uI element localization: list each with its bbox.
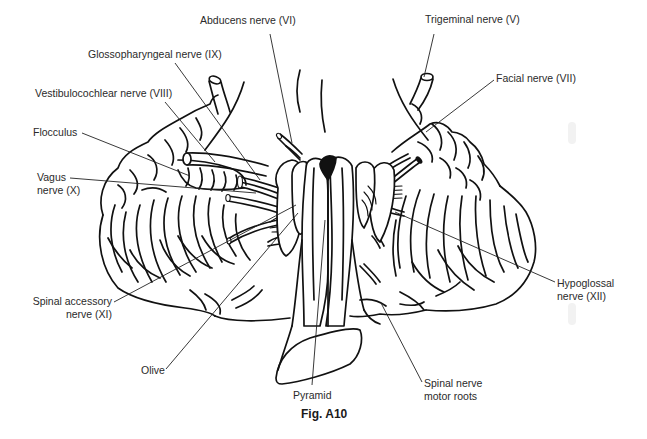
leader-lines: [0, 0, 647, 439]
leader-pyramid: [312, 220, 325, 385]
label-trigeminal-nerve: Trigeminal nerve (V): [425, 13, 520, 26]
label-vagus-nerve: Vagus nerve (X): [37, 171, 80, 196]
label-text: Glossopharyngeal nerve (IX): [88, 48, 222, 60]
label-text: Olive: [141, 364, 165, 376]
label-spinal-nerve-motor-roots: Spinal nerve motor roots: [424, 377, 482, 402]
label-olive: Olive: [141, 364, 165, 377]
label-text-line2: motor roots: [424, 390, 482, 403]
label-text-line1: Hypoglossal: [557, 277, 614, 290]
label-glossopharyngeal-nerve: Glossopharyngeal nerve (IX): [88, 48, 222, 61]
label-pyramid: Pyramid: [293, 389, 332, 402]
label-text-line1: Vagus: [37, 171, 80, 184]
label-facial-nerve: Facial nerve (VII): [496, 72, 576, 85]
label-text-line2: nerve (XII): [557, 290, 614, 303]
label-text: Vestibulocochlear nerve (VIII): [35, 87, 172, 99]
label-hypoglossal-nerve: Hypoglossal nerve (XII): [557, 277, 614, 302]
label-spinal-accessory-nerve: Spinal accessory nerve (XI): [30, 295, 112, 320]
leader-flocculus: [82, 133, 190, 176]
label-text: Flocculus: [33, 126, 77, 138]
label-text: Trigeminal nerve (V): [425, 13, 520, 25]
label-abducens-nerve: Abducens nerve (VI): [200, 14, 296, 27]
leader-vestibulocochlear: [165, 102, 215, 162]
label-vestibulocochlear-nerve: Vestibulocochlear nerve (VIII): [35, 87, 172, 100]
leader-facial: [426, 80, 494, 132]
leader-olive: [166, 213, 298, 369]
label-text-line1: Spinal nerve: [424, 377, 482, 390]
leader-abducens: [270, 34, 292, 143]
scan-artifact: [568, 303, 576, 325]
scan-artifact: [568, 122, 576, 144]
label-text: Abducens nerve (VI): [200, 14, 296, 26]
label-text: Pyramid: [293, 389, 332, 401]
leader-vagus: [70, 178, 256, 193]
label-flocculus: Flocculus: [33, 126, 77, 139]
label-text: Facial nerve (VII): [496, 72, 576, 84]
label-text-line1: Spinal accessory: [30, 295, 112, 308]
anatomy-figure: Abducens nerve (VI) Trigeminal nerve (V)…: [0, 0, 647, 439]
leader-hypoglossal: [395, 212, 555, 282]
leader-trigeminal: [424, 34, 434, 77]
label-text-line2: nerve (XI): [30, 308, 112, 321]
leader-spinal-accessory: [114, 205, 296, 302]
figure-caption: Fig. A10: [301, 407, 347, 421]
leader-glossopharyngeal: [175, 63, 260, 180]
label-text-line2: nerve (X): [37, 184, 80, 197]
leader-spinal-nerve-motor-roots: [381, 303, 422, 382]
